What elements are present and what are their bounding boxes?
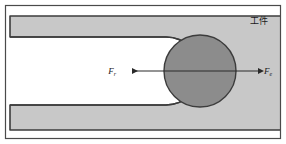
workpiece-label: 工件	[250, 15, 268, 26]
diagram-svg: Fr Fe 工件	[0, 0, 286, 144]
figure-container: Fr Fe 工件	[0, 0, 286, 144]
force-subscript-feed: e	[270, 71, 273, 77]
